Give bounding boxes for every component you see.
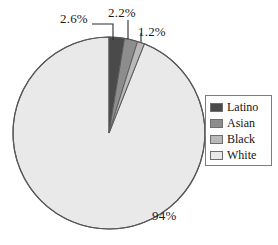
legend-swatch-black bbox=[210, 135, 223, 144]
legend-item-black: Black bbox=[210, 132, 268, 147]
data-label-latino: 2.6% bbox=[60, 11, 88, 27]
legend-label-asian: Asian bbox=[227, 117, 255, 130]
data-label-asian: 2.2% bbox=[108, 5, 136, 21]
chart-legend: Latino Asian Black White bbox=[205, 95, 272, 166]
legend-item-latino: Latino bbox=[210, 100, 268, 115]
data-label-white: 94% bbox=[152, 208, 176, 224]
legend-label-black: Black bbox=[227, 133, 255, 146]
legend-swatch-latino bbox=[210, 103, 223, 112]
legend-item-white: White bbox=[210, 148, 268, 163]
legend-label-latino: Latino bbox=[227, 101, 258, 114]
legend-item-asian: Asian bbox=[210, 116, 268, 131]
legend-swatch-asian bbox=[210, 119, 223, 128]
legend-swatch-white bbox=[210, 151, 223, 160]
legend-label-white: White bbox=[227, 149, 256, 162]
data-label-black: 1.2% bbox=[138, 24, 166, 40]
pie-chart-figure: 2.6% 2.2% 1.2% 94% Latino Asian Black Wh… bbox=[0, 0, 278, 245]
